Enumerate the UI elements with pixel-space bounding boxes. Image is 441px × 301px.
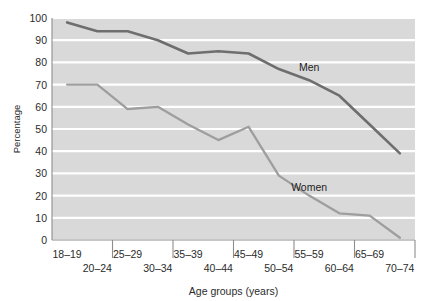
x-tick-label-11: 70–74: [385, 262, 414, 274]
x-tick-label-7: 50–54: [264, 262, 293, 274]
y-tick-label-60: 60: [35, 101, 47, 113]
y-tick-label-70: 70: [35, 79, 47, 91]
y-axis-title: Percentage: [11, 105, 22, 154]
x-tick-label-3: 30–34: [143, 262, 172, 274]
y-tick-label-30: 30: [35, 167, 47, 179]
x-tick-label-9: 60–64: [325, 262, 354, 274]
x-tick-label-5: 40–44: [204, 262, 233, 274]
y-tick-label-100: 100: [29, 12, 47, 24]
y-tick-label-80: 80: [35, 56, 47, 68]
y-tick-label-90: 90: [35, 34, 47, 46]
y-tick-label-50: 50: [35, 123, 47, 135]
x-tick-label-0: 18–19: [53, 248, 82, 260]
y-tick-label-0: 0: [41, 234, 47, 246]
y-tick-label-20: 20: [35, 190, 47, 202]
series-annotation-women: Women: [291, 181, 327, 193]
y-tick-label-40: 40: [35, 145, 47, 157]
x-tick-label-10: 65–69: [355, 248, 384, 260]
x-axis-title: Age groups (years): [189, 285, 278, 297]
series-annotation-men: Men: [299, 61, 320, 73]
x-tick-label-2: 25–29: [113, 248, 142, 260]
line-chart: 0102030405060708090100Percentage18–1920–…: [0, 0, 441, 301]
x-tick-label-6: 45–49: [234, 248, 263, 260]
x-tick-label-1: 20–24: [83, 262, 112, 274]
y-tick-label-10: 10: [35, 212, 47, 224]
chart-figure: 0102030405060708090100Percentage18–1920–…: [0, 0, 441, 301]
x-tick-label-8: 55–59: [295, 248, 324, 260]
x-tick-label-4: 35–39: [174, 248, 203, 260]
